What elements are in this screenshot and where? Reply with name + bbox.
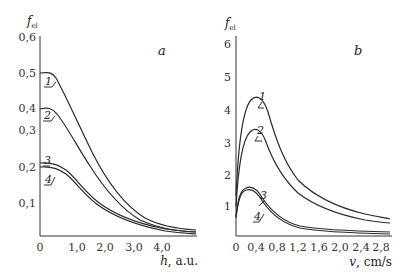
curve-label-4: 4 bbox=[44, 173, 52, 186]
panel-b-xlabel: v, cm/s bbox=[349, 255, 392, 269]
panel-a-curve-3 bbox=[40, 163, 196, 232]
curve-label-2: 2 bbox=[256, 124, 264, 137]
y-tick: 0,5 bbox=[19, 67, 37, 80]
y-tick: 5 bbox=[224, 71, 231, 84]
panel-a: fel 0,1 0,2 0,3 0,4 0,5 0,6 0 1,0 2,0 3,… bbox=[19, 14, 199, 268]
panel-a-curve-1 bbox=[40, 73, 196, 230]
panel-b-x-ticks: 0 0,4 0,8 1,2 1,6 2,0 2,4 2,8 bbox=[233, 241, 390, 254]
x-tick: 2,8 bbox=[372, 241, 390, 254]
panel-b-curve-labels: 1 2 3 4 bbox=[253, 90, 267, 223]
x-tick: 2,0 bbox=[331, 241, 349, 254]
panel-a-curve-labels: 1 2 3 4 bbox=[43, 75, 56, 186]
x-tick: 1,6 bbox=[310, 241, 328, 254]
panel-a-y-ticks: 0,1 0,2 0,3 0,4 0,5 0,6 bbox=[19, 31, 37, 210]
x-tick: 0,8 bbox=[268, 241, 286, 254]
x-tick: 0 bbox=[37, 241, 44, 254]
x-tick: 1,0 bbox=[68, 241, 86, 254]
curve-label-1: 1 bbox=[259, 90, 266, 103]
curve-label-1: 1 bbox=[45, 75, 52, 88]
y-tick: 3 bbox=[224, 137, 231, 150]
x-tick: 2,4 bbox=[352, 241, 370, 254]
panel-b-y-ticks: 1 2 3 4 5 6 bbox=[224, 38, 231, 213]
x-tick: 0,4 bbox=[247, 241, 265, 254]
curve-label-3: 3 bbox=[260, 189, 267, 202]
x-tick: 2,0 bbox=[96, 241, 114, 254]
y-tick: 0,2 bbox=[19, 161, 37, 174]
y-tick: 1 bbox=[224, 200, 231, 213]
panel-a-curve-4 bbox=[40, 167, 196, 234]
figure: fel 0,1 0,2 0,3 0,4 0,5 0,6 0 1,0 2,0 3,… bbox=[0, 0, 409, 279]
x-tick: 4,0 bbox=[153, 241, 171, 254]
y-tick: 6 bbox=[224, 38, 231, 51]
y-tick: 0,4 bbox=[19, 102, 37, 115]
panel-b-letter: b bbox=[354, 43, 362, 58]
y-tick: 0,1 bbox=[19, 197, 37, 210]
panel-a-letter: a bbox=[158, 43, 166, 58]
y-tick: 4 bbox=[224, 104, 231, 117]
curve-label-3: 3 bbox=[44, 154, 51, 167]
panel-b-curve-2 bbox=[236, 129, 390, 223]
panel-a-ylabel: fel bbox=[26, 14, 39, 30]
curve-label-2: 2 bbox=[43, 109, 51, 122]
panel-a-xlabel: h, a.u. bbox=[160, 254, 198, 268]
panel-a-x-ticks: 0 1,0 2,0 3,0 4,0 bbox=[37, 241, 171, 254]
x-tick: 3,0 bbox=[125, 241, 143, 254]
x-tick: 0 bbox=[233, 241, 240, 254]
y-tick: 2 bbox=[224, 169, 231, 182]
x-tick: 1,2 bbox=[289, 241, 307, 254]
y-tick: 0,3 bbox=[19, 124, 37, 137]
panel-a-curve-2 bbox=[40, 108, 196, 232]
panel-b-ylabel: fel bbox=[224, 16, 237, 32]
panel-b: fel 1 2 3 4 5 6 0 0,4 0,8 1,2 1,6 2,0 2,… bbox=[224, 16, 392, 269]
y-tick: 0,6 bbox=[19, 31, 37, 44]
